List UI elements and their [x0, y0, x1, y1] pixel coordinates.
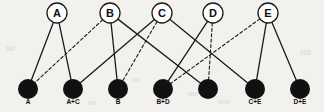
bottom-node-n1[interactable]	[18, 79, 38, 99]
edge-E-to-n6	[257, 23, 267, 80]
bottom-node-label-n4: B+D	[156, 98, 169, 105]
edge-A-to-n2	[59, 23, 71, 80]
top-node-E[interactable]: E	[258, 3, 278, 23]
edge-layer	[31, 19, 296, 84]
graph-svg: ABCDE AA+CBB+DC+ED+E	[0, 0, 324, 112]
edge-C-to-n3	[123, 22, 157, 82]
top-node-B[interactable]: B	[100, 3, 120, 23]
edge-E-to-n4	[170, 19, 260, 84]
bottom-node-label-n1: A	[26, 98, 31, 105]
bottom-node-layer	[18, 79, 310, 99]
top-node-label-A: A	[53, 7, 61, 19]
top-node-label-B: B	[106, 7, 114, 19]
bottom-node-n4[interactable]	[153, 79, 173, 99]
edge-B-to-n1	[35, 20, 103, 83]
top-node-label-D: D	[209, 7, 217, 19]
bottom-node-n2[interactable]	[63, 79, 83, 99]
edge-A-to-n1	[31, 22, 53, 80]
diagram-canvas: ABCDE AA+CBB+DC+ED+E	[0, 0, 324, 112]
bottom-label-layer: AA+CBB+DC+ED+E	[26, 98, 307, 105]
edge-C-to-n2	[80, 19, 155, 83]
bottom-node-label-n6: C+E	[249, 98, 262, 105]
bottom-node-n6[interactable]	[245, 79, 265, 99]
bottom-node-label-n7: D+E	[294, 98, 307, 105]
bottom-node-n5[interactable]	[198, 79, 218, 99]
bottom-node-label-n3: B	[116, 98, 121, 105]
top-node-A[interactable]: A	[47, 3, 67, 23]
bottom-node-label-n2: A+C	[66, 98, 79, 105]
top-node-label-C: C	[158, 7, 166, 19]
bottom-node-n3[interactable]	[108, 79, 128, 99]
top-node-label-E: E	[264, 7, 271, 19]
top-node-layer: ABCDE	[47, 3, 278, 23]
bottom-node-n7[interactable]	[290, 79, 310, 99]
top-node-D[interactable]: D	[203, 3, 223, 23]
top-node-C[interactable]: C	[152, 3, 172, 23]
edge-E-to-n7	[272, 22, 297, 80]
